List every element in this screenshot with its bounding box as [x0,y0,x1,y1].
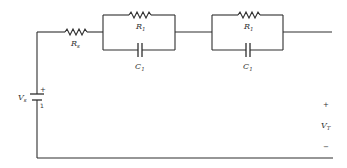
source-label: Vs [18,93,27,103]
terminal-plus: + [323,101,329,109]
terminal-minus: − [323,143,329,151]
rc2-resistor-label: R1 [243,22,254,32]
rc-network-2: R1 C1 [212,12,283,72]
terminal-voltage: + VT − [321,101,331,151]
resistor-r1-a [129,12,151,18]
terminal-label: VT [321,121,331,131]
rc1-resistor-label: R1 [135,22,146,32]
capacitor-c1-a [138,43,142,57]
capacitor-c1-b [246,43,250,57]
rc-network-1: R1 C1 [103,12,175,72]
resistor-r1-b [238,12,260,18]
source-plus: + [40,86,46,94]
series-resistor-label: Rs [70,39,80,49]
voltage-source: + 1 Vs [18,86,46,109]
circuit-diagram: + 1 Vs Rs R1 C1 [0,0,347,168]
source-minus: 1 [40,102,44,109]
rc1-capacitor-label: C1 [135,62,145,72]
rc2-capacitor-label: C1 [243,62,253,72]
series-resistor: Rs [65,29,87,49]
